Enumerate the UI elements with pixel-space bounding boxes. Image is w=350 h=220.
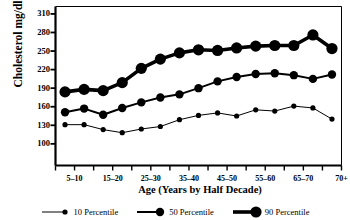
legend-marker-icon (41, 206, 71, 218)
x-tick-label: 35–40 (179, 174, 199, 183)
legend-marker-icon (136, 206, 166, 218)
legend-marker-icon (232, 206, 262, 218)
x-tick-label: 55–60 (255, 174, 275, 183)
legend-dot (62, 209, 67, 214)
x-tick-label: 70+ (335, 174, 348, 183)
x-tick-label: 25–30 (141, 174, 161, 183)
legend-item[interactable]: 90 Percentile (232, 206, 310, 218)
x-axis-title: Age (Years by Half Decade) (55, 184, 345, 195)
legend-dot (156, 207, 164, 215)
legend-label: 90 Percentile (265, 207, 310, 217)
legend-label: 10 Percentile (74, 207, 119, 217)
legend-label: 50 Percentile (169, 207, 214, 217)
x-tick-label: 45–50 (217, 174, 237, 183)
legend-item[interactable]: 50 Percentile (136, 206, 214, 218)
chart-legend: 10 Percentile50 Percentile90 Percentile (0, 203, 350, 220)
chart-figure: Cholesterol mg/dl 1001301601902202502803… (0, 0, 350, 220)
x-tick-label: 15–20 (103, 174, 123, 183)
x-tick-label: 5–10 (67, 174, 83, 183)
x-tick-label: 65–70 (293, 174, 313, 183)
legend-dot (250, 206, 261, 217)
legend-item[interactable]: 10 Percentile (41, 206, 119, 218)
